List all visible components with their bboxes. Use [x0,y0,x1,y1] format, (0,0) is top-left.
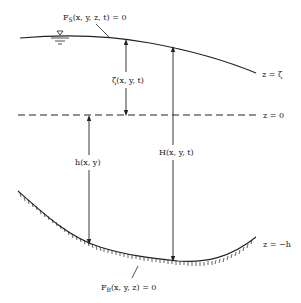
depth-label: h(x, y) [75,158,101,167]
bottom-leader [132,266,138,278]
free-surface-line [20,36,256,73]
water-column-diagram: FS(x, y, z, t) = 0 z = ζ z = 0 ζ(x, y, t… [0,0,301,303]
water-level-icon [51,31,69,44]
bottom-line [18,191,256,261]
bottom-hatching [20,193,252,266]
bottom-equation: FB(x, y, z) = 0 [101,283,156,293]
bottom-label: z = −h [263,240,291,249]
datum-label: z = 0 [263,111,284,120]
zeta-label: ζ(x, y, t) [112,76,144,85]
free-surface-label: z = ζ [262,70,283,79]
free-surface-equation: FS(x, y, z, t) = 0 [63,13,126,23]
total-depth-label: H(x, y, t) [159,148,194,157]
free-surface-leader [96,24,110,38]
